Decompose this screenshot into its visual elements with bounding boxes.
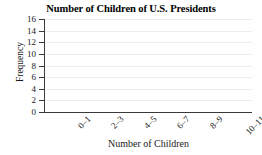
y-tick-mark-2 bbox=[39, 100, 45, 101]
y-tick-mark-14 bbox=[39, 31, 45, 32]
x-axis-title: Number of Children bbox=[45, 138, 252, 149]
x-tick-label-2: 4–5 bbox=[142, 114, 159, 131]
y-tick-mark-16 bbox=[39, 19, 45, 20]
x-axis-line bbox=[44, 112, 252, 113]
gridline-2 bbox=[45, 100, 252, 101]
gridline-10 bbox=[45, 54, 252, 55]
x-tick-label-1: 2–3 bbox=[109, 114, 126, 131]
plot-area bbox=[45, 19, 252, 112]
y-tick-mark-10 bbox=[39, 54, 45, 55]
y-tick-mark-12 bbox=[39, 42, 45, 43]
gridline-8 bbox=[45, 66, 252, 67]
gridline-12 bbox=[45, 42, 252, 43]
y-tick-mark-4 bbox=[39, 89, 45, 90]
y-tick-mark-8 bbox=[39, 66, 45, 67]
y-axis-title: Frequency bbox=[15, 26, 25, 98]
y-tick-label-0: 0 bbox=[12, 108, 36, 117]
x-tick-label-3: 6–7 bbox=[175, 114, 192, 131]
x-tick-label-5: 10–11 bbox=[243, 114, 262, 137]
y-tick-mark-0 bbox=[39, 112, 45, 113]
y-tick-mark-6 bbox=[39, 77, 45, 78]
gridline-16 bbox=[45, 19, 252, 20]
x-tick-label-4: 8–9 bbox=[208, 114, 225, 131]
x-tick-label-0: 0–1 bbox=[76, 114, 93, 131]
gridline-4 bbox=[45, 89, 252, 90]
gridline-6 bbox=[45, 77, 252, 78]
gridline-14 bbox=[45, 31, 252, 32]
y-tick-label-16: 16 bbox=[12, 15, 36, 24]
chart-title: Number of Children of U.S. Presidents bbox=[0, 3, 262, 14]
bar-chart-figure: Number of Children of U.S. Presidents 16… bbox=[0, 0, 262, 155]
